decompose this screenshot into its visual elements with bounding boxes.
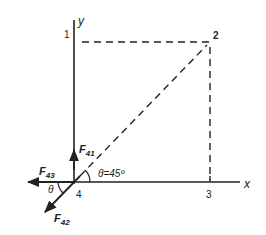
point-1-label: 1 bbox=[64, 29, 70, 40]
x-axis-label: x bbox=[243, 177, 251, 191]
angle-arc-theta bbox=[58, 182, 63, 193]
angle-theta-label: θ bbox=[48, 184, 54, 195]
force-f43-label: F43 bbox=[39, 165, 55, 180]
y-axis-label: y bbox=[77, 14, 85, 28]
point-4-label: 4 bbox=[76, 189, 82, 200]
force-f41-label: F41 bbox=[79, 143, 95, 158]
force-diagram: y x 1 2 3 4 F41 F43 F42 θ=45º θ bbox=[0, 0, 266, 235]
angle-arc-45 bbox=[85, 170, 90, 182]
angle-45-label: θ=45º bbox=[98, 168, 125, 179]
dashed-line-4-2 bbox=[80, 45, 207, 176]
force-f42-label: F42 bbox=[54, 212, 70, 227]
diagram-canvas: y x 1 2 3 4 F41 F43 F42 θ=45º θ bbox=[0, 0, 266, 235]
point-2-label: 2 bbox=[213, 30, 219, 41]
point-3-label: 3 bbox=[206, 189, 212, 200]
